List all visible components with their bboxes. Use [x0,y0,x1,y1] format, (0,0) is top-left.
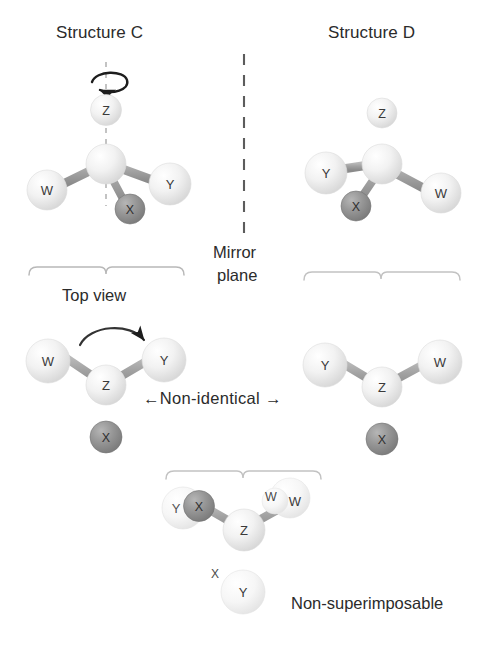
atom-label-y: Y [239,585,248,600]
atom-label-y: Y [160,353,169,368]
rotation-arrow-icon [92,73,127,92]
mirror-plane-label-line1: Mirror [213,243,256,262]
structure-d-3d: Z Y W X [305,98,461,221]
atom-center [86,144,126,184]
bracket-right [304,272,460,280]
atom-label-w: W [289,494,302,509]
atom-z: Z [91,95,122,126]
curved-rotation-arrow-icon [80,328,144,345]
atom-label-y: Y [321,358,330,373]
atom-x: X [341,191,371,221]
atom-label-x: X [352,200,361,214]
atom-label-w: W [42,354,55,369]
overlay-atom-w-ghost: W W [262,478,310,518]
atom-y: Y [303,343,347,387]
atom-label-w: W [434,355,447,370]
atom-label-z: Z [240,523,248,538]
structure-d-title: Structure D [328,23,415,43]
atom-label-w: W [435,186,448,201]
atom-label-z: Z [378,380,386,395]
top-view-label: Top view [62,286,126,305]
overlay-structure: Y X W W Z Y X [162,478,310,614]
overlay-atom-x: X [184,491,215,522]
non-superimposable-label: Non-superimposable [291,594,443,613]
atom-z: Z [367,98,397,128]
overlay-atom-bottom: Y X [211,567,265,614]
overlay-atom-z: Z [223,509,265,551]
atom-w: W [418,340,462,384]
atom-w: W [26,339,70,383]
atom-label-w-ghost: W [265,490,277,504]
bracket-left [29,267,184,275]
atom-label-z: Z [102,104,110,118]
atom-center [362,144,402,184]
atom-x: X [90,421,122,453]
atom-label-x: X [126,203,135,217]
atom-label-x: X [195,500,204,514]
atom-label-x-ghost: X [211,567,219,581]
atom-label-y: Y [166,177,175,192]
atom-label-z: Z [102,378,110,393]
structure-c-title: Structure C [56,23,143,43]
molecule-diagram-svg: Z W Y X [0,0,487,648]
atom-y: Y [142,338,186,382]
bracket-bottom [166,471,321,479]
atom-label-y: Y [322,166,331,181]
atom-label-x: X [378,433,387,447]
atom-y: Y [305,152,347,194]
atom-x: X [366,423,398,455]
atom-w: W [27,170,67,210]
atom-label-z: Z [378,107,386,121]
non-identical-label: ←Non-identical → [143,389,282,408]
atom-w: W [421,173,461,213]
figure-canvas: Z W Y X [0,0,487,648]
atom-label-w: W [41,183,54,198]
structure-c-3d: Z W Y X [27,62,191,224]
atom-x: X [115,194,145,224]
structure-d-top-view: Z Y W X [303,340,462,455]
atom-y: Y [149,163,191,205]
mirror-plane-label-line2: plane [217,266,257,285]
atom-label-x: X [102,431,111,445]
atom-label-y: Y [172,501,181,516]
